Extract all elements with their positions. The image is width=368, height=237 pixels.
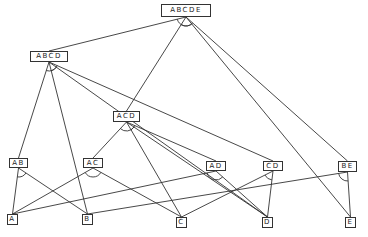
edge-be-b: [88, 172, 348, 214]
edge-cd-d: [268, 171, 274, 217]
edge-acd-d: [127, 122, 268, 217]
edge-be-e: [348, 172, 351, 217]
edge-ad-a: [13, 171, 217, 214]
node-e: E: [345, 217, 356, 228]
edge-abcd-ab: [19, 62, 50, 158]
edge-abcde-e: [186, 17, 351, 217]
edge-ab-a: [13, 168, 19, 214]
and-arc-cd: [265, 175, 272, 180]
and-arc-be: [339, 173, 348, 181]
edge-abcde-abcd: [49, 17, 186, 51]
node-abcde: ABCDE: [161, 4, 211, 17]
node-abcd: ABCD: [30, 51, 68, 62]
edge-abcde-be: [186, 17, 348, 161]
edge-abcd-d: [49, 62, 268, 217]
edge-acd-ac: [93, 122, 127, 158]
edge-abcde-acd: [127, 17, 187, 111]
node-be: BE: [338, 161, 357, 172]
edge-abcd-cd: [49, 62, 273, 161]
node-ac: AC: [83, 158, 103, 168]
and-arc-abcd: [51, 67, 56, 71]
edge-ac-c: [93, 168, 182, 217]
node-c: C: [176, 217, 187, 228]
edges-layer: [0, 0, 368, 237]
node-d: D: [262, 217, 273, 228]
node-ab: AB: [9, 158, 28, 168]
node-ad: AD: [206, 161, 226, 171]
and-arc-ab: [17, 173, 26, 177]
node-b: B: [82, 214, 93, 225]
node-acd: ACD: [113, 111, 140, 122]
node-a: A: [7, 214, 18, 225]
and-arc-ad: [207, 173, 223, 180]
node-cd: CD: [263, 161, 283, 171]
edge-acd-ad: [127, 122, 217, 161]
and-arc-ac: [85, 172, 101, 177]
